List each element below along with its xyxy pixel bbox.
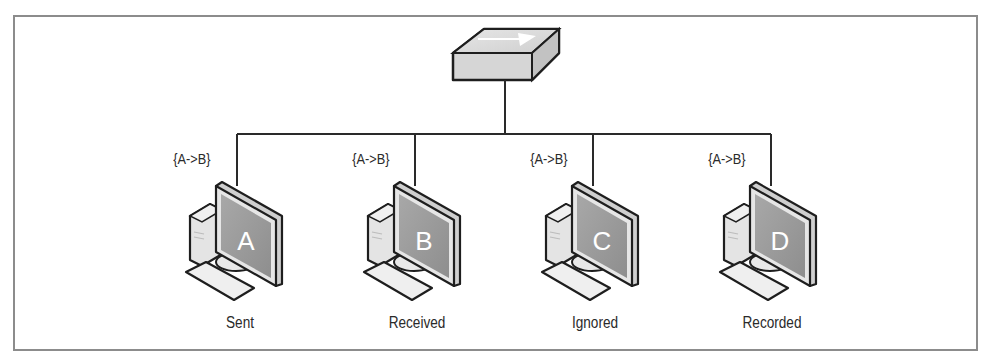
computer-icon-c: C bbox=[542, 182, 638, 300]
network-diagram: A B C D bbox=[0, 0, 988, 364]
caption-sent: Sent bbox=[189, 314, 291, 332]
message-label-a: {A->B} bbox=[173, 150, 210, 167]
network-hub-icon bbox=[453, 29, 559, 80]
computer-icon-d: D bbox=[720, 182, 816, 300]
caption-ignored: Ignored bbox=[544, 314, 646, 332]
message-label-b: {A->B} bbox=[352, 150, 389, 167]
host-letter-a: A bbox=[237, 226, 255, 256]
host-letter-b: B bbox=[415, 226, 432, 256]
computer-icon-a: A bbox=[186, 182, 282, 300]
computer-icon-b: B bbox=[364, 182, 460, 300]
caption-received: Received bbox=[366, 314, 468, 332]
message-label-c: {A->B} bbox=[530, 150, 567, 167]
host-letter-d: D bbox=[771, 226, 790, 256]
bus-network-lines bbox=[237, 80, 771, 186]
caption-recorded: Recorded bbox=[721, 314, 823, 332]
host-letter-c: C bbox=[593, 226, 612, 256]
message-label-d: {A->B} bbox=[708, 150, 745, 167]
